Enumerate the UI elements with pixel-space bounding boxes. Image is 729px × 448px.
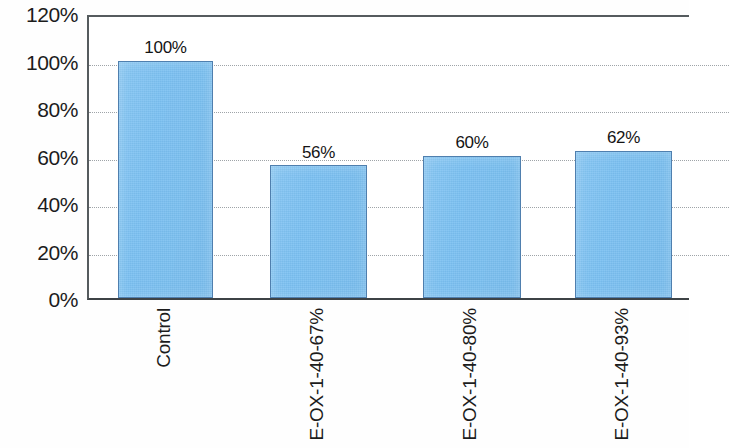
y-tick-label-120: 120% [26,4,78,25]
bar-value-label-e-ox-1-40-93: 62% [575,128,672,148]
y-axis: 120% 100% 80% 60% 40% 20% 0% [0,0,82,448]
y-tick-label-60: 60% [37,147,78,168]
x-tick-e-ox-1-40-80: E-OX-1-40-80% [421,300,519,448]
y-tick-label-0: 0% [48,289,78,310]
x-axis: Control E-OX-1-40-67% E-OX-1-40-80% E-OX… [87,300,689,448]
bars-layer: 100% 56% 60% 62% [89,17,689,298]
x-tick-label-e-ox-1-40-93: E-OX-1-40-93% [611,308,633,441]
bar-control[interactable] [118,61,213,299]
y-tick-label-100: 100% [26,52,78,73]
bar-group-control: 100% [118,15,213,298]
x-tick-label-e-ox-1-40-67: E-OX-1-40-67% [306,308,328,441]
x-tick-label-control: Control [153,308,175,368]
x-tick-e-ox-1-40-93: E-OX-1-40-93% [573,300,670,448]
y-tick-label-20: 20% [37,242,78,263]
bar-value-label-e-ox-1-40-67: 56% [270,143,367,163]
bar-e-ox-1-40-67[interactable] [270,165,367,298]
bar-e-ox-1-40-80[interactable] [423,156,521,299]
bar-group-e-ox-1-40-93: 62% [575,15,672,298]
bar-value-label-e-ox-1-40-80: 60% [423,133,521,153]
x-tick-label-e-ox-1-40-80: E-OX-1-40-80% [459,308,481,441]
x-tick-e-ox-1-40-67: E-OX-1-40-67% [268,300,365,448]
x-tick-control: Control [116,300,211,448]
bar-group-e-ox-1-40-80: 60% [423,15,521,298]
bar-value-label-control: 100% [118,38,213,58]
bar-group-e-ox-1-40-67: 56% [270,15,367,298]
bar-e-ox-1-40-93[interactable] [575,151,672,299]
plot-area: 100% 56% 60% 62% [87,15,689,300]
y-tick-label-40: 40% [37,194,78,215]
y-tick-label-80: 80% [37,99,78,120]
